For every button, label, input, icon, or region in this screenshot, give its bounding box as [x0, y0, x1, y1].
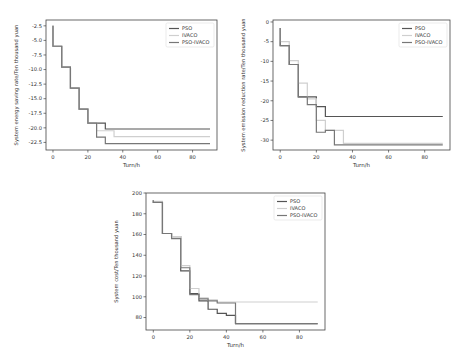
- x-tick-label: 80: [189, 154, 196, 160]
- y-tick-label: 200: [132, 190, 142, 196]
- y-tick-label: -22.5: [29, 139, 42, 145]
- x-axis-label: Turn/h: [122, 162, 141, 168]
- y-tick-label: -12.5: [29, 81, 42, 87]
- energy-saving-chart: 020406080-2.5-5.0-7.5-10.0-12.5-15.0-17.…: [0, 0, 233, 175]
- y-tick-label: -7.5: [32, 52, 42, 58]
- legend-label: IVACO: [290, 205, 305, 211]
- chart-svg: 0204060800-5-10-15-20-25-30Turn/hSystem …: [233, 0, 466, 175]
- y-tick-label: 140: [132, 252, 142, 258]
- legend-label: PSO: [415, 25, 425, 31]
- legend-label: PSO-IVACO: [182, 39, 209, 45]
- x-tick-label: 40: [223, 334, 230, 340]
- y-tick-label: -25: [261, 117, 269, 123]
- x-tick-label: 0: [152, 334, 155, 340]
- legend: PSOIVACOPSO-IVACO: [166, 23, 214, 47]
- x-tick-label: 60: [260, 334, 267, 340]
- x-tick-label: 40: [119, 154, 126, 160]
- y-tick-label: 0: [266, 19, 269, 25]
- y-tick-label: -10: [261, 58, 269, 64]
- legend-label: PSO: [182, 25, 192, 31]
- y-axis-label: System energy saving rate/Ten thousand y…: [13, 25, 20, 146]
- y-tick-label: -30: [261, 137, 269, 143]
- y-tick-label: 120: [132, 273, 142, 279]
- y-tick-label: -17.5: [29, 110, 42, 116]
- legend-label: IVACO: [415, 32, 430, 38]
- legend-label: PSO-IVACO: [415, 39, 442, 45]
- y-tick-label: -15: [261, 78, 269, 84]
- legend: PSOIVACOPSO-IVACO: [399, 23, 447, 47]
- system-cost-chart: 02040608020018016014012010080Turn/hSyste…: [100, 180, 366, 353]
- x-axis-label: Turn/h: [352, 162, 371, 168]
- y-tick-label: 180: [132, 211, 142, 217]
- y-axis-label: System emission reduction rate/Ten thous…: [240, 18, 247, 151]
- y-tick-label: -15.0: [29, 95, 42, 101]
- y-tick-label: -2.5: [32, 23, 42, 29]
- y-tick-label: -20: [261, 98, 269, 104]
- x-tick-label: 60: [154, 154, 161, 160]
- y-tick-label: -10.0: [29, 66, 42, 72]
- y-tick-label: -5: [264, 38, 269, 44]
- x-tick-label: 60: [385, 154, 392, 160]
- legend-label: IVACO: [182, 32, 197, 38]
- x-tick-label: 40: [349, 154, 356, 160]
- x-tick-label: 20: [187, 334, 194, 340]
- x-tick-label: 20: [85, 154, 92, 160]
- y-axis-label: System cost/Ten thousand yuan: [113, 220, 120, 303]
- y-tick-label: -20.0: [29, 125, 42, 131]
- y-tick-label: 100: [132, 294, 142, 300]
- y-tick-label: -5.0: [32, 37, 42, 43]
- chart-svg: 020406080-2.5-5.0-7.5-10.0-12.5-15.0-17.…: [0, 0, 233, 175]
- chart-svg: 02040608020018016014012010080Turn/hSyste…: [100, 180, 366, 353]
- x-tick-label: 20: [313, 154, 320, 160]
- x-tick-label: 80: [421, 154, 428, 160]
- x-tick-label: 0: [279, 154, 282, 160]
- emission-reduction-chart: 0204060800-5-10-15-20-25-30Turn/hSystem …: [233, 0, 466, 175]
- y-tick-label: 160: [132, 231, 142, 237]
- x-axis-label: Turn/h: [226, 342, 245, 348]
- x-tick-label: 0: [51, 154, 54, 160]
- y-tick-label: 80: [135, 314, 142, 320]
- legend: PSOIVACOPSO-IVACO: [274, 196, 322, 220]
- legend-label: PSO: [290, 198, 300, 204]
- x-tick-label: 80: [296, 334, 303, 340]
- legend-label: PSO-IVACO: [290, 212, 317, 218]
